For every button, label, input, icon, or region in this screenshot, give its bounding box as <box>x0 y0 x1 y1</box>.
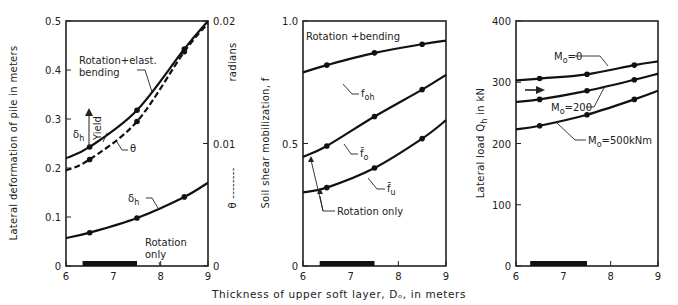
x-tick-label: 8 <box>607 271 613 282</box>
leader-line <box>344 144 358 154</box>
p1-label-yield: Yield <box>92 116 103 141</box>
p3-ylabel: Lateral load Qh in kN <box>475 88 489 199</box>
p2-label-top: Rotation +bending <box>306 31 400 42</box>
x-tick-label: 9 <box>205 271 211 282</box>
x-tick-label: 6 <box>513 271 519 282</box>
leader-line <box>368 178 385 189</box>
p1-label-rotonly-2: only <box>145 249 166 260</box>
x-tick-label: 7 <box>347 271 353 282</box>
leader-line <box>137 70 152 92</box>
data-point-marker <box>182 49 188 55</box>
x-tick-label: 9 <box>443 271 449 282</box>
x-tick-label: 7 <box>560 271 566 282</box>
shared-x-axis-title: Thickness of upper soft layer, Dₒ, in me… <box>0 288 678 300</box>
p1-label-theta: θ <box>130 143 136 154</box>
y-tick-label: 200 <box>492 139 511 150</box>
data-point-marker <box>584 112 590 118</box>
data-point-marker <box>632 97 638 103</box>
data-point-marker <box>372 114 378 120</box>
y2-tick-label: 0 <box>213 261 219 272</box>
p3-label-m500: Mo=500kNm <box>588 135 652 149</box>
data-point-marker <box>537 97 543 103</box>
data-point-marker <box>372 165 378 171</box>
data-point-marker <box>87 230 93 236</box>
data-point-marker <box>584 71 590 77</box>
data-point-marker <box>632 62 638 68</box>
leader-line <box>311 160 323 211</box>
p1-label-delta-top: δh <box>73 129 84 143</box>
y-tick-label: 100 <box>492 200 511 211</box>
x-tick-label: 7 <box>110 271 116 282</box>
data-point-marker <box>324 143 330 149</box>
leader-line <box>556 122 586 140</box>
y-tick-label: 0.1 <box>45 212 61 223</box>
data-point-marker <box>134 119 140 125</box>
p1-ylabel: Lateral deformation of pile in meters <box>8 46 19 241</box>
load-arrow-head <box>536 86 545 94</box>
p2-label-rotonly: Rotation only <box>337 206 403 217</box>
data-point-marker <box>134 215 140 221</box>
shaded-range-bar <box>320 261 375 266</box>
p3-label-m0: Mo=0 <box>554 51 582 65</box>
p2-label-foh: foh <box>361 88 375 102</box>
y-tick-label: 0 <box>55 261 61 272</box>
x-tick-label: 6 <box>63 271 69 282</box>
shaded-range-bar <box>530 261 587 266</box>
x-tick-label: 9 <box>655 271 661 282</box>
data-point-marker <box>537 76 543 82</box>
data-point-marker <box>419 136 425 142</box>
p1-label-rotonly-1: Rotation <box>145 237 187 248</box>
x-tick-label: 6 <box>300 271 306 282</box>
y-tick-label: 0.3 <box>45 114 61 125</box>
p1-label-elast-1: Rotation+elast. <box>79 55 157 66</box>
p2-label-fu: f̄u <box>387 182 396 197</box>
p2-ylabel: Soil shear mobilization, f <box>260 77 271 208</box>
y-tick-label: 400 <box>492 16 511 27</box>
leader-line <box>343 84 359 94</box>
p1-y2label: radians <box>227 42 238 81</box>
yield-arrow-head <box>85 108 93 116</box>
data-point-marker <box>419 87 425 93</box>
p2-label-fo: f̄o <box>360 147 369 162</box>
panel-2-frame <box>303 21 446 266</box>
y-tick-label: 0.2 <box>45 163 61 174</box>
chart-canvas: Lateral deformation of pile in meters ra… <box>0 0 678 305</box>
data-point-marker <box>182 194 188 200</box>
leader-line <box>146 198 158 208</box>
p1-label-elast-2: bending <box>79 67 120 78</box>
y-tick-label: 0.5 <box>45 16 61 27</box>
y-tick-label: 0 <box>505 261 511 272</box>
leader-line <box>117 142 128 150</box>
figure: Lateral deformation of pile in meters ra… <box>0 0 678 305</box>
data-point-marker <box>584 88 590 94</box>
x-tick-label: 8 <box>157 271 163 282</box>
arrow-head <box>308 156 314 162</box>
x-tick-label: 8 <box>395 271 401 282</box>
y-tick-label: 300 <box>492 77 511 88</box>
data-point-marker <box>324 62 330 68</box>
data-point-marker <box>134 107 140 113</box>
data-point-marker <box>87 157 93 163</box>
shaded-range-bar <box>83 261 137 266</box>
p1-y2legend: θ -------- <box>227 167 238 208</box>
data-point-marker <box>537 123 543 129</box>
data-point-marker <box>324 185 330 191</box>
series-line <box>303 120 446 192</box>
data-point-marker <box>87 144 93 150</box>
series-line <box>66 183 208 238</box>
y2-tick-label: 0.01 <box>213 139 235 150</box>
y-tick-label: 0.5 <box>282 139 298 150</box>
y-tick-label: 0.4 <box>45 65 61 76</box>
y2-tick-label: 0.02 <box>213 16 235 27</box>
y-tick-label: 1.0 <box>282 16 298 27</box>
p1-label-delta-bottom: δh <box>128 193 139 207</box>
data-point-marker <box>372 50 378 56</box>
series-line <box>66 21 208 158</box>
data-point-marker <box>632 77 638 83</box>
data-point-marker <box>419 41 425 47</box>
y-tick-label: 0 <box>292 261 298 272</box>
